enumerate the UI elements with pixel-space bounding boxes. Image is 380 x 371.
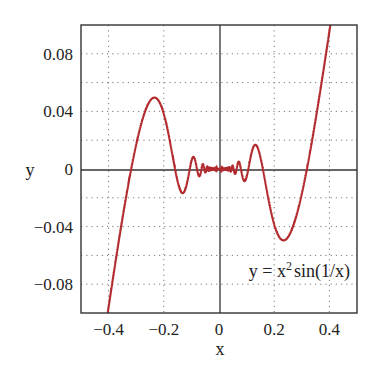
equation-annotation: y = x2sin(1/x) <box>249 259 350 282</box>
chart: −0.4−0.200.20.4 0.080.040−0.04−0.08 x y … <box>0 0 380 371</box>
y-tick-label: −0.04 <box>34 218 74 237</box>
x-tick-label: 0.4 <box>319 320 341 339</box>
y-tick-label: 0.04 <box>43 102 73 121</box>
x-tick-label: 0 <box>215 320 224 339</box>
y-axis-label: y <box>26 160 35 180</box>
y-tick-label: −0.08 <box>34 275 73 294</box>
y-tick-label: 0.08 <box>43 45 73 64</box>
x-tick-label: −0.4 <box>93 320 124 339</box>
y-tick-labels: 0.080.040−0.04−0.08 <box>34 45 74 294</box>
x-tick-labels: −0.4−0.200.20.4 <box>93 320 340 339</box>
x-tick-label: 0.2 <box>264 320 285 339</box>
x-tick-label: −0.2 <box>148 320 179 339</box>
x-axis-label: x <box>216 339 225 359</box>
y-tick-label: 0 <box>65 160 74 179</box>
